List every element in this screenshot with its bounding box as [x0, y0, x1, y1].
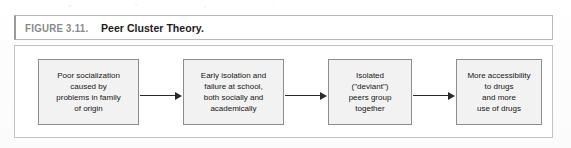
flow-node-2-line-2: failure at school, [204, 81, 262, 92]
flow-arrow-3-head [448, 92, 455, 100]
flow-arrow-2-head [320, 92, 327, 100]
flow-node-2-line-4: academically [210, 103, 256, 114]
scan-speckle [40, 3, 340, 9]
flowchart: Poor socialization caused by problems in… [15, 46, 552, 137]
flow-node-3-line-3: peers group [349, 92, 392, 103]
flow-node-4: More accessibility to drugs and more use… [456, 59, 542, 125]
flow-arrow-2-shaft [285, 95, 321, 96]
figure-title: Peer Cluster Theory. [101, 22, 204, 34]
figure-title-bar: FIGURE 3.11. Peer Cluster Theory. [14, 15, 553, 40]
flow-node-2-line-3: both socially and [204, 92, 264, 103]
flow-node-1-line-2: caused by [70, 81, 106, 92]
flow-node-4-line-3: and more [482, 92, 516, 103]
flow-arrow-3-icon [413, 91, 455, 100]
flow-arrow-1-shaft [140, 95, 176, 96]
flow-node-3-line-2: ("deviant") [352, 81, 389, 92]
figure-number-label: FIGURE 3.11. [25, 22, 88, 34]
flow-arrow-1-head [175, 92, 182, 100]
flow-node-1-line-3: problems in family [56, 92, 120, 103]
flow-node-1: Poor socialization caused by problems in… [38, 59, 139, 125]
flow-node-2: Early isolation and failure at school, b… [183, 59, 284, 125]
diagram-frame: Poor socialization caused by problems in… [14, 45, 553, 138]
flow-node-2-line-1: Early isolation and [201, 70, 266, 81]
flow-node-1-line-1: Poor socialization [57, 70, 120, 81]
flow-node-4-line-2: to drugs [485, 81, 514, 92]
flow-node-3-line-4: together [355, 103, 384, 114]
flow-arrow-2-icon [285, 91, 327, 100]
flow-arrow-1-icon [140, 91, 182, 100]
flow-node-4-line-4: use of drugs [477, 103, 521, 114]
flow-node-4-line-1: More accessibility [467, 70, 530, 81]
figure-page: FIGURE 3.11. Peer Cluster Theory. Poor s… [0, 0, 571, 148]
flow-node-3-line-1: Isolated [356, 70, 384, 81]
flow-node-3: Isolated ("deviant") peers group togethe… [328, 59, 412, 125]
flow-arrow-3-shaft [413, 95, 449, 96]
flow-node-1-line-4: of origin [74, 103, 102, 114]
